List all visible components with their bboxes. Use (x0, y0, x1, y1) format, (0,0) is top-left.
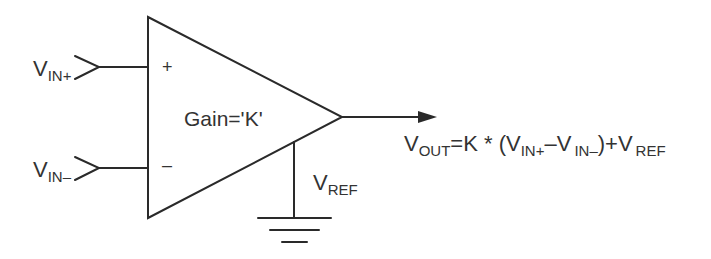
plus-sign: + (162, 57, 173, 77)
output-equation: VOUT=K * (VIN+–VIN–)+VREF (404, 131, 666, 159)
schematic: VIN+ VIN– + – Gain='K' VREF VOUT=K * (VI… (0, 0, 711, 259)
input-plus-chevron-icon (75, 56, 99, 79)
output-arrow-icon (418, 111, 437, 123)
gain-label: Gain='K' (184, 107, 263, 130)
input-minus-chevron-icon (75, 157, 99, 180)
label-vin-plus: VIN+ (33, 56, 72, 84)
label-vref: VREF (313, 170, 358, 198)
minus-sign: – (162, 155, 172, 175)
diagram-canvas: VIN+ VIN– + – Gain='K' VREF VOUT=K * (VI… (0, 0, 711, 259)
label-vin-minus: VIN– (33, 157, 72, 185)
